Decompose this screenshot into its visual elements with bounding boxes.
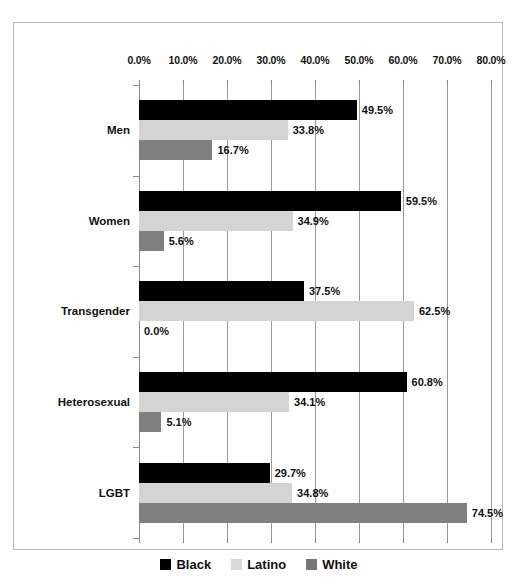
x-axis-tick-label: 80.0% [477,54,506,66]
axis-tick-mark [447,80,448,85]
bar[interactable] [139,483,292,503]
bar-row: 60.8% [139,372,491,392]
bar-value-label: 16.7% [217,144,248,156]
category-label: Women [89,215,130,227]
bar-value-label: 74.5% [472,507,503,519]
bar-value-label: 37.5% [309,285,340,297]
gridline [491,85,492,538]
category-label: Men [107,124,130,136]
x-axis-tick-labels: 0.0%10.0%20.0%30.0%40.0%50.0%60.0%70.0%8… [14,54,518,68]
bar-row: 0.0% [139,321,491,341]
legend-item[interactable]: White [306,557,357,572]
chart-legend: BlackLatinoWhite [14,557,504,572]
bar-value-label: 59.5% [406,195,437,207]
bar[interactable] [139,120,288,140]
bar-value-label: 5.1% [166,416,191,428]
axis-tick-mark [491,80,492,85]
axis-tick-mark [271,80,272,85]
legend-swatch-icon [231,559,242,570]
axis-tick-mark [227,80,228,85]
bar-value-label: 33.8% [293,124,324,136]
category-axis-tick [133,357,139,358]
bar-value-label: 49.5% [362,104,393,116]
bar[interactable] [139,392,289,412]
bar[interactable] [139,231,164,251]
category-axis-end-tick [133,538,139,539]
bar[interactable] [139,140,212,160]
bar-row: 34.9% [139,211,491,231]
bar-row: 33.8% [139,120,491,140]
category-group: Women59.5%34.9%5.6% [139,176,491,267]
legend-item[interactable]: Black [160,557,211,572]
bar[interactable] [139,412,161,432]
category-axis-tick [133,266,139,267]
bar-value-label: 34.9% [298,215,329,227]
chart-frame: 0.0%10.0%20.0%30.0%40.0%50.0%60.0%70.0%8… [13,22,503,550]
bar-value-label: 34.8% [297,487,328,499]
bar[interactable] [139,100,357,120]
x-axis-tick-label: 50.0% [345,54,374,66]
category-group: Transgender37.5%62.5%0.0% [139,266,491,357]
bar[interactable] [139,503,467,523]
x-axis-tick-label: 20.0% [213,54,242,66]
legend-swatch-icon [306,559,317,570]
category-axis-tick [133,176,139,177]
bar-value-label: 5.6% [169,235,194,247]
axis-tick-mark [227,538,228,543]
category-group: Heterosexual60.8%34.1%5.1% [139,357,491,448]
x-axis-tick-label: 40.0% [301,54,330,66]
axis-tick-mark [183,538,184,543]
axis-tick-mark [491,538,492,543]
legend-label: Latino [247,557,286,572]
x-axis-tick-label: 30.0% [257,54,286,66]
axis-tick-mark [447,538,448,543]
category-label: LGBT [99,487,130,499]
bar[interactable] [139,463,270,483]
axis-tick-mark [139,538,140,543]
bar-row: 74.5% [139,503,491,523]
legend-swatch-icon [160,559,171,570]
legend-label: Black [176,557,211,572]
bar-row: 49.5% [139,100,491,120]
bar-value-label: 34.1% [294,396,325,408]
category-axis-tick [133,447,139,448]
bar-value-label: 29.7% [275,467,306,479]
x-axis-tick-label: 60.0% [389,54,418,66]
category-label: Transgender [61,305,130,317]
x-axis-tick-label: 70.0% [433,54,462,66]
bar-row: 62.5% [139,301,491,321]
legend-item[interactable]: Latino [231,557,286,572]
axis-tick-mark [359,538,360,543]
bar[interactable] [139,211,293,231]
bar[interactable] [139,281,304,301]
bar-value-label: 62.5% [419,305,450,317]
bar[interactable] [139,191,401,211]
bar-row: 34.1% [139,392,491,412]
category-group: LGBT29.7%34.8%74.5% [139,447,491,538]
bar-row: 5.1% [139,412,491,432]
bar-row: 34.8% [139,483,491,503]
bar-value-label: 0.0% [144,325,169,337]
axis-tick-mark [315,80,316,85]
chart-title [0,0,518,6]
plot-area: Men49.5%33.8%16.7%Women59.5%34.9%5.6%Tra… [139,85,491,538]
category-axis-end-tick [133,85,139,86]
bar-row: 16.7% [139,140,491,160]
axis-tick-mark [403,80,404,85]
legend-label: White [322,557,357,572]
axis-tick-mark [403,538,404,543]
bar-value-label: 60.8% [412,376,443,388]
category-label: Heterosexual [58,396,130,408]
bar-row: 5.6% [139,231,491,251]
axis-tick-mark [271,538,272,543]
bar-row: 37.5% [139,281,491,301]
bar-row: 59.5% [139,191,491,211]
bar-row: 29.7% [139,463,491,483]
bar[interactable] [139,372,407,392]
category-group: Men49.5%33.8%16.7% [139,85,491,176]
x-axis-tick-label: 10.0% [169,54,198,66]
axis-tick-mark [139,80,140,85]
axis-tick-mark [359,80,360,85]
bar[interactable] [139,301,414,321]
axis-tick-mark [183,80,184,85]
